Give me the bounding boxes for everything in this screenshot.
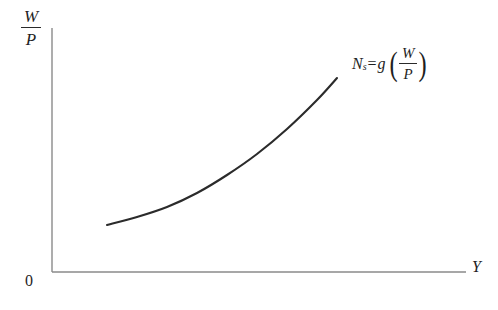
curve-label: Ns = g ( W P ) [352, 46, 429, 82]
curve-label-function: g [378, 56, 386, 72]
curve-label-close-paren: ) [419, 50, 427, 79]
y-axis-label: W P [14, 8, 48, 48]
y-axis-label-denominator: P [21, 30, 41, 48]
curve-label-symbol: N [352, 56, 363, 72]
curve-label-argument-fraction: W P [399, 46, 418, 82]
curve-label-equals: = [368, 56, 377, 72]
curve-label-argument-denominator: P [399, 66, 418, 82]
y-axis-label-numerator: W [21, 8, 41, 26]
x-axis-label: Y [472, 259, 481, 275]
origin-label: 0 [25, 273, 33, 289]
labor-supply-curve [107, 78, 337, 225]
curve-label-argument-numerator: W [399, 46, 418, 62]
figure-canvas: W P 0 Y Ns = g ( W P ) [0, 0, 498, 310]
y-axis-label-fraction: W P [21, 8, 41, 48]
curve-label-subscript: s [363, 62, 367, 72]
curve-label-open-paren: ( [389, 50, 397, 79]
fraction-bar [21, 27, 41, 28]
curve-label-fraction-bar [399, 63, 418, 64]
